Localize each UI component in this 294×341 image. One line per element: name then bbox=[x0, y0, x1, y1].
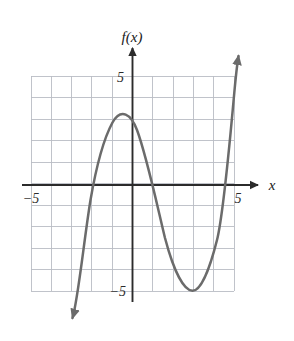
y-tick-label-positive: 5 bbox=[117, 70, 124, 85]
x-tick-label-positive: 5 bbox=[235, 191, 242, 206]
x-tick-label-negative: −5 bbox=[23, 191, 39, 206]
coordinate-plane-svg: f(x) x 5 −5 −5 5 bbox=[0, 0, 294, 341]
y-tick-label-negative: −5 bbox=[110, 284, 126, 299]
graph-figure: f(x) x 5 −5 −5 5 bbox=[0, 0, 294, 341]
x-axis-label: x bbox=[268, 177, 276, 193]
function-label: f(x) bbox=[122, 29, 143, 46]
